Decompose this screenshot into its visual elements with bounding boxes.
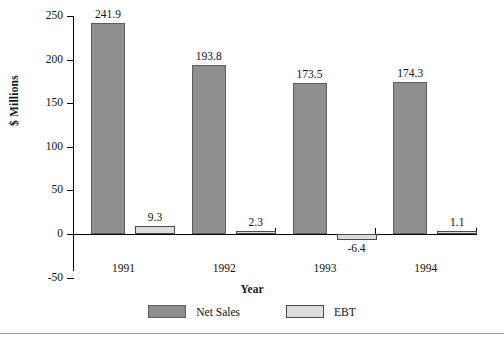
- bar-ebt-1993: [337, 234, 377, 240]
- y-axis-tick-label: 250: [18, 10, 63, 22]
- chart-legend: Net Sales EBT: [0, 305, 504, 318]
- data-label-net-sales-1993: 173.5: [285, 68, 335, 80]
- y-axis-title: $ Millions: [8, 108, 20, 126]
- x-axis-label-1991: 1991: [73, 262, 174, 274]
- data-label-ebt-1991: 9.3: [130, 211, 180, 223]
- data-label-ebt-1992: 2.3: [231, 216, 281, 228]
- ebt-swatch-icon: [286, 305, 324, 318]
- bar-ebt-1991: [135, 226, 175, 234]
- bottom-divider: [0, 333, 504, 334]
- data-label-net-sales-1991: 241.9: [83, 8, 133, 20]
- bar-ebt-1992: [236, 231, 276, 234]
- y-axis-tick-label: 50: [18, 184, 63, 196]
- x-axis-label-1992: 1992: [174, 262, 275, 274]
- legend-item-ebt: EBT: [286, 305, 356, 318]
- data-label-net-sales-1992: 193.8: [184, 50, 234, 62]
- y-axis-tick-label: 0: [18, 228, 63, 240]
- x-axis-label-1993: 1993: [275, 262, 376, 274]
- y-axis-tick-label: -50: [18, 272, 63, 284]
- data-label-ebt-1994: 1.1: [432, 216, 482, 228]
- y-axis-tick-label: 100: [18, 141, 63, 153]
- y-axis-tick: [67, 147, 74, 148]
- y-axis-tick: [67, 16, 74, 17]
- y-axis-tick-label: 200: [18, 54, 63, 66]
- x-axis-label-1994: 1994: [375, 262, 476, 274]
- y-axis-tick: [67, 103, 74, 104]
- x-axis-title: Year: [0, 283, 504, 295]
- data-label-ebt-1993: -6.4: [332, 242, 382, 254]
- bar-chart: -50050100150200250 241.99.3193.82.3173.5…: [0, 0, 504, 341]
- y-axis-tick: [67, 234, 74, 235]
- y-axis-line: [73, 16, 74, 271]
- legend-label-net-sales: Net Sales: [196, 306, 240, 318]
- y-axis-tick: [67, 278, 74, 279]
- netsales-swatch-icon: [148, 305, 186, 318]
- bar-net-sales-1993: [293, 83, 327, 234]
- legend-label-ebt: EBT: [334, 306, 356, 318]
- data-label-net-sales-1994: 174.3: [385, 67, 435, 79]
- bar-net-sales-1992: [192, 65, 226, 234]
- y-axis-tick: [67, 60, 74, 61]
- y-axis-tick: [67, 190, 74, 191]
- bar-ebt-1994: [437, 231, 477, 234]
- y-axis-tick-label: 150: [18, 97, 63, 109]
- legend-item-net-sales: Net Sales: [148, 305, 240, 318]
- bar-net-sales-1994: [393, 82, 427, 234]
- bar-net-sales-1991: [91, 23, 125, 234]
